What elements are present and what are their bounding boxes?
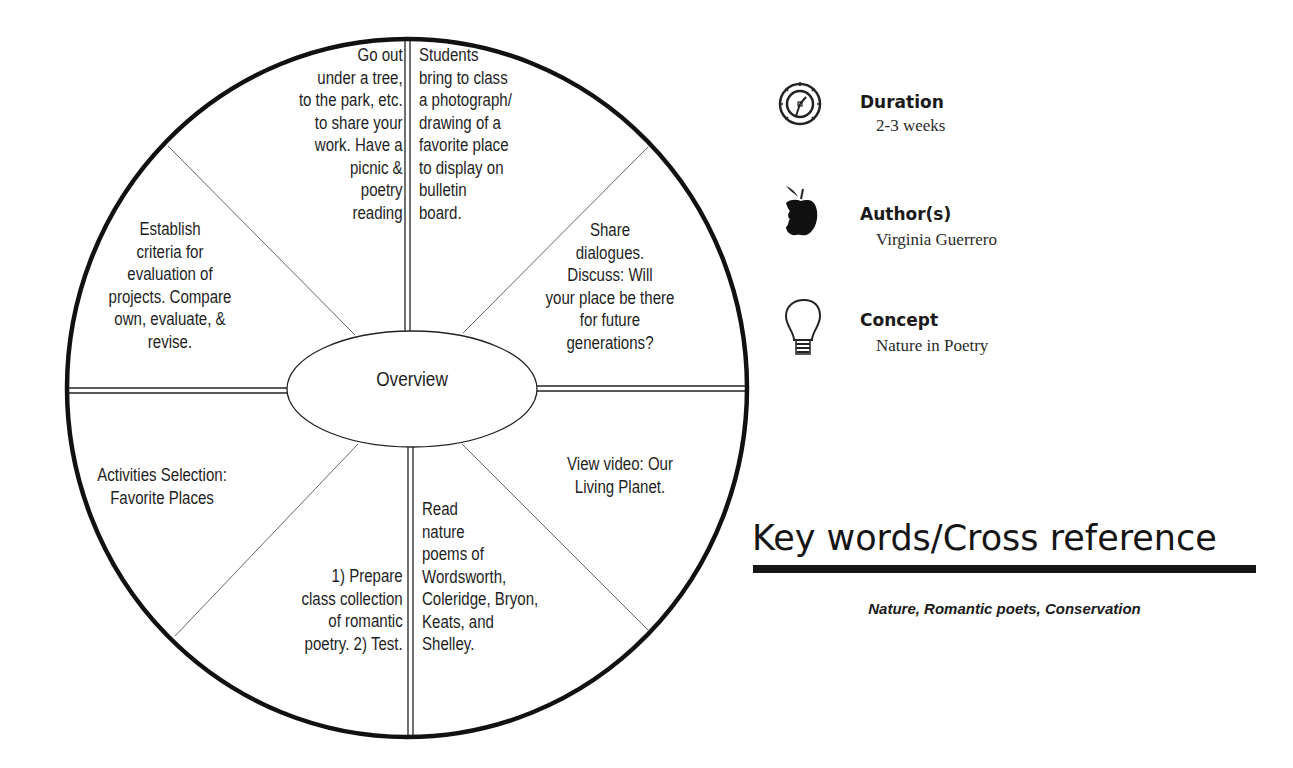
author-value: Virginia Guerrero (876, 230, 997, 250)
segment-activities-selection: Activities Selection: Favorite Places (76, 464, 248, 509)
author-label: Author(s) (860, 204, 951, 224)
lightbulb-icon (780, 296, 830, 360)
segment-go-out: Go out under a tree, to the park, etc. t… (299, 44, 403, 224)
clock-icon (776, 80, 826, 132)
duration-value: 2-3 weeks (876, 116, 945, 136)
segment-students-bring: Students bring to class a photograph/ dr… (419, 44, 512, 224)
segment-view-video: View video: Our Living Planet. (534, 453, 706, 498)
activity-wheel: Overview Go out under a tree, to the par… (0, 0, 760, 768)
apple-icon (776, 180, 826, 242)
keywords-heading: Key words/Cross reference (752, 518, 1217, 558)
concept-label: Concept (860, 310, 938, 330)
segment-read-poems: Read nature poems of Wordsworth, Colerid… (422, 498, 538, 656)
keywords-divider (753, 565, 1256, 573)
keywords-list: Nature, Romantic poets, Conservation (753, 600, 1256, 617)
duration-label: Duration (860, 92, 944, 112)
segment-prepare-collection: 1) Prepare class collection of romantic … (302, 565, 403, 655)
segment-establish-criteria: Establish criteria for evaluation of pro… (75, 218, 264, 353)
concept-value: Nature in Poetry (876, 336, 988, 356)
segment-share-dialogues: Share dialogues. Discuss: Will your plac… (520, 219, 701, 354)
overview-label: Overview (305, 368, 520, 391)
